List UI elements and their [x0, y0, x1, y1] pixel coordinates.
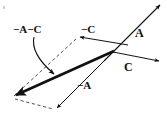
label-vector-c: C — [124, 61, 133, 73]
construction-line-parallel-neg-a — [14, 39, 76, 96]
construction-line-parallel-neg-c — [15, 99, 53, 109]
label-vector-a: A — [135, 27, 144, 39]
vector-diagram-figure: A C −A −C −A−C — [0, 0, 167, 115]
vector-c-line — [113, 52, 159, 61]
label-resultant: −A−C — [13, 24, 41, 35]
label-vector-neg-c: −C — [81, 24, 95, 35]
label-vector-neg-a: −A — [77, 80, 91, 91]
vector-canvas — [0, 0, 167, 115]
resultant-leader-curve — [33, 37, 54, 74]
vector-neg-c-line — [80, 37, 128, 45]
vector-resultant-line — [16, 51, 114, 95]
